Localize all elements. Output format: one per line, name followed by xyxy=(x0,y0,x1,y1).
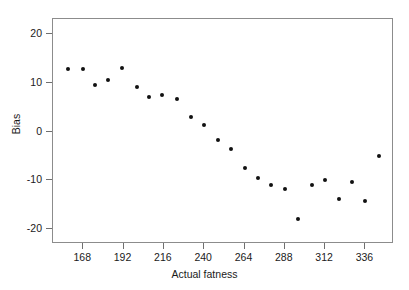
data-point xyxy=(175,97,179,101)
x-axis-tick-label: 192 xyxy=(103,252,143,263)
x-axis-tick xyxy=(163,243,164,249)
data-point xyxy=(106,78,110,82)
data-point xyxy=(229,147,233,151)
data-point xyxy=(283,187,287,191)
x-axis-tick xyxy=(284,243,285,249)
data-point xyxy=(337,197,341,201)
data-point xyxy=(81,67,85,71)
y-axis-tick-label: 10 xyxy=(0,77,42,88)
y-axis-tick xyxy=(46,82,52,83)
y-axis-tick xyxy=(46,179,52,180)
y-axis-tick-label: 20 xyxy=(0,28,42,39)
plot-area-frame xyxy=(52,18,393,243)
data-point xyxy=(202,123,206,127)
y-axis-title: Bias xyxy=(10,94,22,154)
x-axis-tick xyxy=(123,243,124,249)
data-point xyxy=(323,178,327,182)
data-point xyxy=(310,183,314,187)
y-axis-tick-label: -10 xyxy=(0,174,42,185)
y-axis-tick xyxy=(46,131,52,132)
data-point xyxy=(189,115,193,119)
data-point xyxy=(93,83,97,87)
x-axis-tick-label: 312 xyxy=(304,252,344,263)
data-point xyxy=(147,95,151,99)
x-axis-tick xyxy=(244,243,245,249)
data-point xyxy=(256,176,260,180)
x-axis-tick xyxy=(364,243,365,249)
data-points-layer xyxy=(53,19,394,244)
x-axis-tick xyxy=(82,243,83,249)
data-point xyxy=(377,154,381,158)
x-axis-tick-label: 264 xyxy=(224,252,264,263)
data-point xyxy=(216,138,220,142)
data-point xyxy=(296,217,300,221)
x-axis-title: Actual fatness xyxy=(0,268,409,280)
x-axis-tick-label: 336 xyxy=(344,252,384,263)
data-point xyxy=(350,180,354,184)
scatter-plot-figure: 20100-10-20 168192216240264288312336 Act… xyxy=(0,0,409,290)
data-point xyxy=(120,66,124,70)
x-axis-tick-label: 168 xyxy=(62,252,102,263)
y-axis-tick xyxy=(46,33,52,34)
data-point xyxy=(66,67,70,71)
x-axis-tick xyxy=(324,243,325,249)
data-point xyxy=(160,93,164,97)
data-point xyxy=(135,85,139,89)
data-point xyxy=(363,199,367,203)
x-axis-tick xyxy=(203,243,204,249)
y-axis-tick xyxy=(46,228,52,229)
data-point xyxy=(243,166,247,170)
x-axis-tick-label: 288 xyxy=(264,252,304,263)
x-axis-tick-label: 240 xyxy=(183,252,223,263)
y-axis-tick-label: -20 xyxy=(0,223,42,234)
x-axis-tick-label: 216 xyxy=(143,252,183,263)
data-point xyxy=(269,183,273,187)
